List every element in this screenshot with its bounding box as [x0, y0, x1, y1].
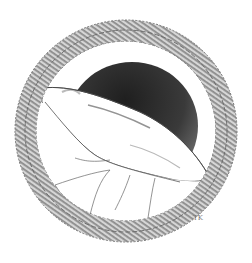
illustration: TK	[0, 0, 252, 263]
artist-signature: TK	[193, 214, 203, 222]
vessel-cross-section-drawing	[0, 0, 252, 263]
